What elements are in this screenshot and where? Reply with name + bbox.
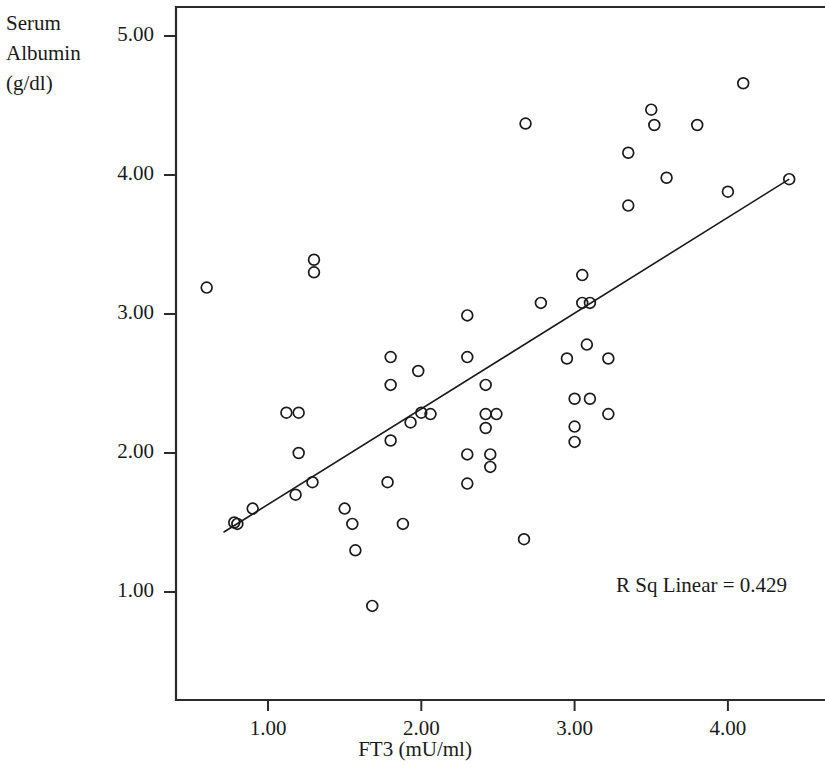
data-point — [646, 104, 657, 115]
data-point — [485, 462, 496, 473]
data-points — [201, 78, 794, 611]
data-point — [603, 409, 614, 420]
data-point — [293, 448, 304, 459]
data-point — [367, 601, 378, 612]
y-axis-ticks — [164, 36, 176, 592]
data-point — [649, 120, 660, 131]
y-tick-label: 4.00 — [74, 161, 154, 186]
plot-canvas — [0, 0, 825, 772]
data-point — [405, 417, 416, 428]
x-tick-label: 4.00 — [683, 716, 773, 741]
data-point — [350, 545, 361, 556]
data-point — [692, 120, 703, 131]
y-tick-label: 3.00 — [74, 300, 154, 325]
data-point — [462, 310, 473, 321]
data-point — [623, 200, 634, 211]
data-point — [290, 489, 301, 500]
data-point — [520, 118, 531, 129]
data-point — [247, 503, 258, 514]
data-point — [623, 147, 634, 158]
data-point — [585, 393, 596, 404]
data-point — [385, 435, 396, 446]
data-point — [398, 518, 409, 529]
x-axis-title: FT3 (mU/ml) — [265, 737, 565, 762]
data-point — [723, 186, 734, 197]
data-point — [569, 393, 580, 404]
scatter-plot-figure: Serum Albumin (g/dl) 1.002.003.004.005.0… — [0, 0, 825, 772]
x-axis-ticks — [268, 700, 728, 711]
data-point — [201, 282, 212, 293]
data-point — [480, 379, 491, 390]
data-point — [569, 436, 580, 447]
data-point — [661, 172, 672, 183]
data-point — [738, 78, 749, 89]
r-squared-annotation: R Sq Linear = 0.429 — [616, 573, 787, 598]
data-point — [309, 267, 320, 278]
data-point — [281, 407, 292, 418]
data-point — [293, 407, 304, 418]
data-point — [569, 421, 580, 432]
data-point — [347, 518, 358, 529]
data-point — [535, 297, 546, 308]
data-point — [339, 503, 350, 514]
y-tick-label: 2.00 — [74, 439, 154, 464]
data-point — [382, 477, 393, 488]
y-tick-label: 5.00 — [74, 22, 154, 47]
data-point — [462, 478, 473, 489]
data-point — [577, 270, 588, 281]
y-tick-label: 1.00 — [74, 578, 154, 603]
data-point — [480, 423, 491, 434]
data-point — [562, 353, 573, 364]
data-point — [462, 449, 473, 460]
data-point — [462, 352, 473, 363]
data-point — [485, 449, 496, 460]
data-point — [309, 254, 320, 265]
data-point — [307, 477, 318, 488]
data-point — [519, 534, 530, 545]
data-point — [581, 339, 592, 350]
data-point — [491, 409, 502, 420]
data-point — [603, 353, 614, 364]
data-point — [385, 352, 396, 363]
data-point — [480, 409, 491, 420]
data-point — [385, 379, 396, 390]
data-point — [413, 366, 424, 377]
